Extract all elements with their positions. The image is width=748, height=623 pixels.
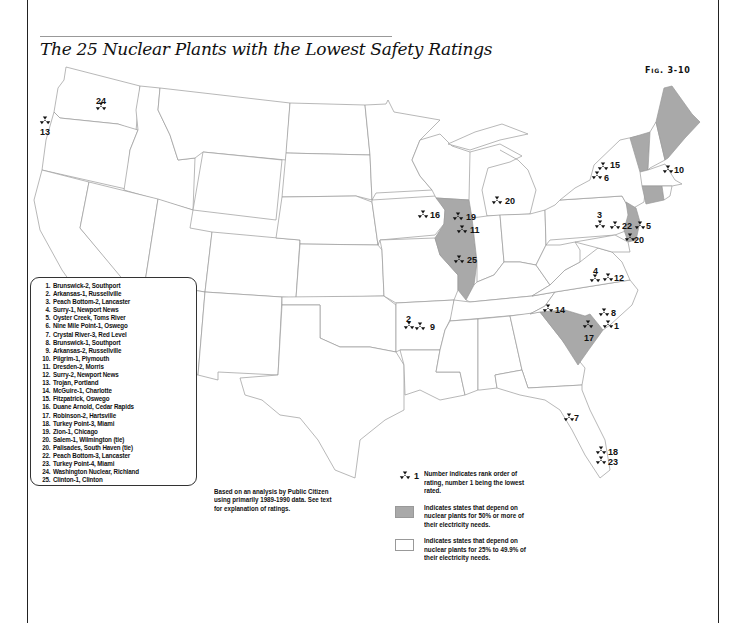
marker-rank-label: 18 — [608, 447, 618, 457]
marker-rank-label: 16 — [430, 210, 440, 220]
plant-marker: 13 — [40, 116, 50, 137]
state-wyoming — [193, 152, 282, 220]
marker-rank-label: 17 — [584, 333, 594, 343]
marker-rank-label: 24 — [96, 96, 106, 106]
state-iowa — [372, 196, 445, 245]
legend-white-text: Indicates states that depend on nuclear … — [424, 537, 535, 563]
svg-text:1: 1 — [414, 471, 419, 481]
plant-name: Clinton-1, Clinton — [53, 475, 103, 484]
marker-rank-label: 15 — [610, 160, 620, 170]
state-ohio — [500, 210, 546, 265]
state-new-mexico — [198, 292, 282, 380]
marker-rank-label: 4 — [593, 266, 598, 276]
white-swatch — [395, 539, 414, 551]
marker-rank-label: 19 — [466, 212, 476, 222]
legend: 1 Number indicates rank order of rating,… — [395, 470, 595, 571]
state-connecticut-ri — [642, 186, 664, 204]
marker-rank-label: 6 — [604, 173, 609, 183]
state-north-dakota — [286, 103, 370, 155]
gray-swatch — [395, 506, 414, 518]
state-maine — [656, 86, 700, 160]
marker-rank-label: 8 — [611, 308, 616, 318]
marker-rank-label: 5 — [646, 221, 651, 231]
state-kansas — [296, 244, 384, 298]
marker-rank-label: 22 — [622, 221, 632, 231]
plant-list-item: 25.Clinton-1, Clinton — [39, 476, 168, 484]
marker-rank-label: 9 — [430, 322, 435, 332]
marker-rank-label: 11 — [470, 225, 480, 235]
legend-symbol-text: Number indicates rank order of rating, n… — [424, 470, 535, 496]
marker-rank-label: 3 — [597, 210, 602, 220]
legend-symbol-row: 1 Number indicates rank order of rating,… — [395, 470, 595, 496]
marker-rank-label: 20 — [634, 235, 644, 245]
state-montana — [158, 88, 290, 160]
plant-rank: 25. — [39, 476, 50, 484]
marker-rank-label: 25 — [467, 255, 477, 265]
state-rhode-island — [662, 186, 672, 200]
legend-white-row: Indicates states that depend on nuclear … — [395, 537, 595, 563]
marker-rank-label: 1 — [614, 321, 619, 331]
marker-rank-label: 13 — [40, 127, 50, 137]
state-south-dakota — [282, 153, 372, 200]
marker-rank-label: 14 — [555, 305, 565, 315]
plant-ranking-list: 1.Brunswick-2, Southport2.Arkansas-1, Ru… — [30, 277, 197, 486]
marker-rank-label: 2 — [406, 314, 411, 324]
legend-gray-text: Indicates states that depend on nuclear … — [424, 504, 535, 530]
trefoil-icon — [40, 116, 50, 124]
state-nebraska — [276, 196, 378, 245]
state-colorado — [205, 232, 300, 298]
marker-rank-label: 12 — [614, 273, 624, 283]
source-note: Based on an analysis by Public Citizen u… — [214, 488, 342, 513]
marker-rank-label: 23 — [608, 457, 618, 467]
marker-rank-label: 20 — [505, 196, 515, 206]
legend-gray-row: Indicates states that depend on nuclear … — [395, 504, 595, 530]
trefoil-icon: 1 — [398, 470, 422, 482]
marker-rank-label: 7 — [574, 413, 579, 423]
marker-rank-label: 10 — [674, 165, 684, 175]
